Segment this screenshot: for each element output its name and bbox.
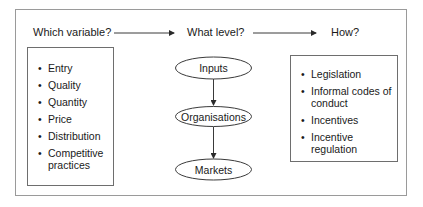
variable-item: Entry (38, 62, 113, 74)
variable-item: Distribution (38, 130, 113, 142)
level-node-markets: Markets (175, 159, 252, 180)
level-node-inputs: Inputs (175, 57, 252, 79)
method-item: Incentives (301, 114, 397, 126)
heading-what-level: What level? (187, 26, 244, 39)
method-item: Incentive regulation (301, 131, 371, 155)
variable-item: Price (38, 113, 113, 125)
level-node-organisations: Organisations (175, 106, 252, 127)
heading-how: How? (331, 26, 359, 39)
variable-item: Competitive practices (38, 147, 110, 171)
heading-which-variable: Which variable? (33, 26, 111, 39)
method-item: Informal codes of conduct (301, 85, 399, 109)
variables-box: Entry Quality Quantity Price Distributio… (27, 47, 114, 186)
method-item: Legislation (301, 68, 397, 80)
methods-list: Legislation Informal codes of conduct In… (301, 68, 397, 155)
variable-item: Quantity (38, 96, 113, 108)
variables-list: Entry Quality Quantity Price Distributio… (38, 62, 113, 171)
methods-box: Legislation Informal codes of conduct In… (290, 55, 398, 162)
variable-item: Quality (38, 79, 113, 91)
